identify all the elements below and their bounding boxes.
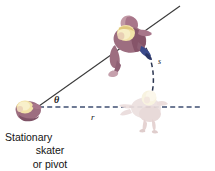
rotational-motion-diagram: θ r s Stationary skater or pivot — [0, 0, 215, 171]
caption-line-1: Stationary — [4, 131, 96, 144]
caption-line-2: skater — [4, 144, 96, 157]
initial-position-skater-figure — [119, 91, 168, 134]
arc-length-label: s — [158, 58, 161, 66]
rotation-solid-line — [39, 6, 180, 106]
pivot-caption: Stationary skater or pivot — [4, 131, 96, 171]
angle-theta-label: θ — [54, 95, 59, 105]
caption-line-3: or pivot — [4, 158, 96, 171]
radius-label: r — [91, 113, 95, 122]
rotating-skater-figure — [108, 16, 152, 77]
pivot-skater-figure — [16, 101, 42, 122]
